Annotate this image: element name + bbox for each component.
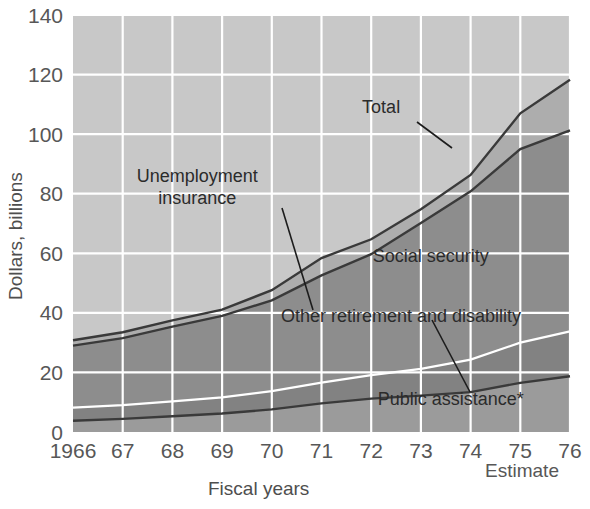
annotation-other-retirement-and-disability: Other retirement and disability: [281, 306, 521, 326]
x-tick-label-73: 73: [409, 439, 432, 462]
x-tick-label-75: 75: [509, 439, 532, 462]
x-tick-label-1966: 1966: [50, 439, 97, 462]
x-tick-label-67: 67: [111, 439, 134, 462]
annotation-social-security: Social security: [373, 246, 489, 266]
annotation-public-assistance: Public assistance*: [378, 389, 524, 409]
x-tick-label-70: 70: [260, 439, 283, 462]
x-tick-label-71: 71: [310, 439, 333, 462]
y-axis-ticks: 020406080100120140: [28, 4, 63, 444]
chart-container: 020406080100120140 196667686970717273747…: [0, 0, 590, 509]
x-axis-ticks: 196667686970717273747576: [50, 439, 582, 462]
x-tick-label-74: 74: [459, 439, 483, 462]
annotation-total: Total: [362, 97, 400, 117]
y-tick-label-140: 140: [28, 4, 63, 27]
x-tick-label-69: 69: [210, 439, 233, 462]
x-tick-label-68: 68: [161, 439, 184, 462]
y-tick-label-60: 60: [40, 242, 63, 265]
estimate-note: Estimate: [485, 460, 559, 481]
y-tick-label-100: 100: [28, 123, 63, 146]
y-tick-label-120: 120: [28, 63, 63, 86]
x-tick-label-72: 72: [360, 439, 383, 462]
x-tick-label-76: 76: [558, 439, 581, 462]
area-chart: 020406080100120140 196667686970717273747…: [0, 0, 590, 509]
y-tick-label-80: 80: [40, 182, 63, 205]
y-axis-title: Dollars, billions: [5, 172, 26, 300]
y-tick-label-40: 40: [40, 301, 63, 324]
y-tick-label-20: 20: [40, 361, 63, 384]
x-axis-title: Fiscal years: [208, 478, 309, 499]
